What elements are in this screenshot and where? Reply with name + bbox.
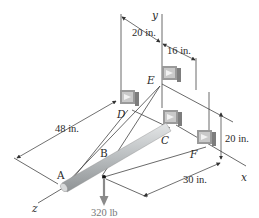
label-z-axis: z — [31, 202, 38, 214]
dim-30 — [144, 163, 220, 196]
bracket-e — [162, 66, 181, 82]
label-c: C — [161, 134, 169, 146]
a-extension-line — [14, 158, 58, 184]
dim-label-20-top: 20 in. — [132, 27, 156, 38]
dim-label-16: 16 in. — [167, 45, 191, 56]
z-axis-line — [38, 188, 63, 203]
dim-label-48: 48 in. — [55, 123, 79, 134]
label-y-axis: y — [151, 9, 159, 21]
axis-lines — [14, 14, 246, 203]
label-f: F — [189, 148, 198, 160]
dimension-lines — [17, 17, 221, 196]
bracket-f — [197, 130, 216, 146]
label-e: E — [146, 74, 155, 86]
label-d: D — [116, 108, 126, 120]
dim-label-30: 30 in. — [183, 174, 207, 185]
label-a: A — [56, 169, 65, 181]
boom-cable-diagram: E D C F A B y x z 20 in. 16 in. 48 in. 2… — [0, 0, 259, 218]
label-b: B — [100, 147, 108, 159]
load-arrow — [100, 178, 109, 206]
label-x-axis: x — [241, 171, 247, 183]
load-label: 320 lb — [91, 207, 118, 218]
b-extension-line — [106, 179, 147, 197]
dim-label-20-right: 20 in. — [225, 133, 249, 144]
bracket-d — [120, 90, 139, 106]
